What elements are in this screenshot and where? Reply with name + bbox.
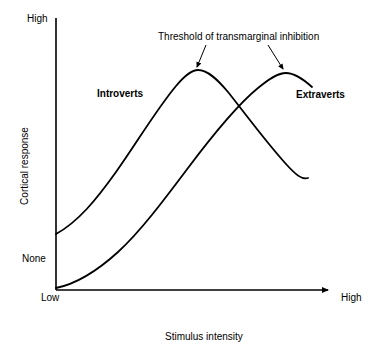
y-axis-tick-high: High — [27, 13, 48, 25]
y-axis-title: Cortical response — [18, 106, 32, 226]
annotation-threshold-label: Threshold of transmarginal inhibition — [158, 31, 319, 43]
y-axis-tick-none: None — [22, 253, 46, 265]
curve-extraverts — [56, 73, 312, 288]
series-label-introverts: Introverts — [97, 88, 143, 100]
x-axis-tick-low: Low — [41, 292, 59, 304]
x-axis-title: Stimulus intensity — [165, 331, 243, 343]
curve-introverts — [56, 70, 308, 234]
chart-figure: High None Cortical response Low High Sti… — [0, 0, 378, 351]
leader-line-introverts — [197, 45, 206, 67]
series-label-extraverts: Extraverts — [296, 89, 345, 101]
leader-line-extraverts — [268, 45, 283, 69]
x-axis-tick-high: High — [341, 292, 362, 304]
